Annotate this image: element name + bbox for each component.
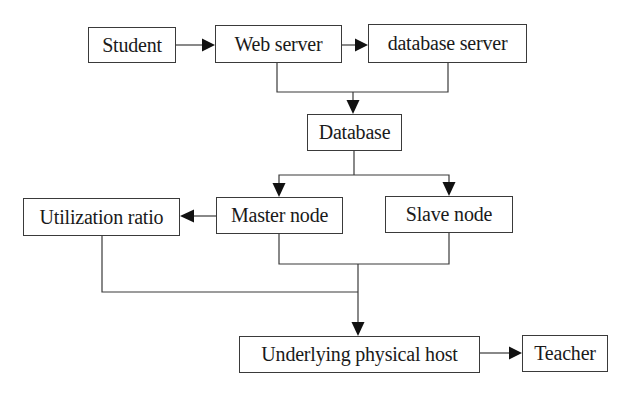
edge-physical-host-to-teacher — [480, 347, 522, 360]
arrowhead-icon — [443, 182, 456, 196]
node-utilization-ratio: Utilization ratio — [23, 198, 180, 236]
node-label: Teacher — [534, 342, 596, 365]
node-student: Student — [88, 27, 176, 63]
node-label: Database — [319, 121, 391, 144]
edge-web-server-to-database-server — [342, 39, 368, 52]
node-teacher: Teacher — [522, 335, 608, 372]
arrowhead-icon — [352, 322, 365, 336]
edge-student-to-web-server — [176, 39, 215, 52]
node-master-node: Master node — [216, 197, 343, 234]
node-label: database server — [388, 32, 508, 55]
flowchart-diagram: Student Web server database server Datab… — [0, 0, 628, 393]
node-label: Slave node — [406, 203, 492, 226]
arrowhead-icon — [180, 210, 194, 223]
node-slave-node: Slave node — [385, 196, 513, 233]
arrowhead-icon — [347, 100, 360, 114]
node-database-server: database server — [368, 24, 527, 63]
node-label: Underlying physical host — [261, 343, 457, 366]
node-label: Student — [102, 34, 162, 57]
edge-to-physical-host — [352, 264, 365, 336]
node-web-server: Web server — [215, 25, 342, 63]
arrowhead-icon — [509, 347, 522, 360]
edge-nodes-merge — [279, 233, 449, 264]
node-label: Web server — [234, 33, 322, 56]
arrowhead-icon — [355, 39, 368, 52]
node-database: Database — [307, 114, 402, 151]
node-label: Utilization ratio — [40, 206, 164, 229]
node-underlying-physical-host: Underlying physical host — [239, 336, 480, 373]
edge-servers-to-database — [277, 63, 448, 114]
arrowhead-icon — [202, 39, 215, 52]
edge-database-to-nodes — [273, 151, 456, 197]
node-label: Master node — [231, 204, 328, 227]
arrowhead-icon — [273, 183, 286, 197]
edge-master-to-utilization — [180, 210, 216, 223]
